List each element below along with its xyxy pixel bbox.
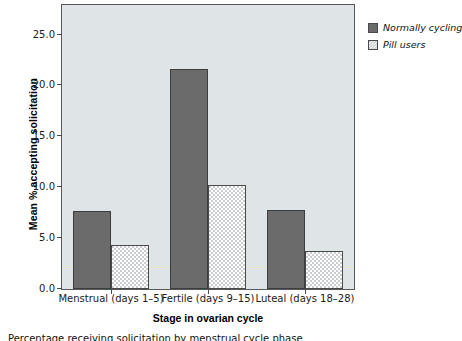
y-axis-tick-label: 25.0 <box>33 28 55 39</box>
bar-normal-group-0 <box>73 211 111 289</box>
y-axis-tick <box>57 34 62 35</box>
y-axis-tick <box>57 135 62 136</box>
y-axis-title: Mean % accepting solicitation <box>27 39 39 269</box>
bar-normal-group-2 <box>267 210 305 289</box>
y-axis-tick-label: 10.0 <box>33 181 55 192</box>
y-axis-tick-label: 0.0 <box>39 283 55 294</box>
x-axis-tick-label: Menstrual (days 1–5) <box>58 293 163 304</box>
y-axis-tick <box>57 186 62 187</box>
y-axis-tick <box>57 288 62 289</box>
bar-pill-group-1 <box>208 185 246 289</box>
legend-swatch-icon <box>368 23 378 33</box>
y-axis-tick <box>57 84 62 85</box>
y-axis-tick-label: 15.0 <box>33 130 55 141</box>
y-axis-tick <box>57 237 62 238</box>
bar-pill-group-0 <box>111 245 149 289</box>
plot-inner: 0.05.010.015.020.025.0 <box>62 5 354 289</box>
bar-pill-group-2 <box>305 251 343 289</box>
legend-item-label: Normally cycling <box>383 22 462 33</box>
legend-item-label: Pill users <box>383 39 425 50</box>
x-axis-title: Stage in ovarian cycle <box>61 312 355 324</box>
legend-swatch-icon <box>368 40 378 50</box>
bar-normal-group-1 <box>170 69 208 289</box>
x-axis-tick-label: Luteal (days 18–28) <box>256 293 355 304</box>
legend-item-pill-users[interactable]: Pill users <box>368 39 462 50</box>
legend-item-normally-cycling[interactable]: Normally cycling <box>368 22 462 33</box>
plot-area: 0.05.010.015.020.025.0 <box>61 4 355 290</box>
y-axis-tick-label: 5.0 <box>39 232 55 243</box>
x-axis-tick-label: Fertile (days 9–15) <box>162 293 255 304</box>
chart-legend: Normally cyclingPill users <box>368 22 462 56</box>
y-axis-tick-label: 20.0 <box>33 79 55 90</box>
figure-caption: Percentage receiving solicitation by men… <box>8 333 448 341</box>
